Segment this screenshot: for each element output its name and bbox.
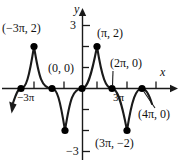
y-axis: [79, 8, 86, 160]
point-label-min: (3π, −2): [95, 137, 134, 149]
point-dot: [93, 43, 100, 50]
leader-line-two-pi: [113, 71, 114, 86]
y-tick-label-3: 3: [70, 19, 76, 31]
point-label-two-pi: (2π, 0): [110, 57, 142, 69]
point-label-left-max: (−3π, 2): [2, 22, 41, 34]
point-label-origin: (0, 0): [48, 62, 74, 74]
point-label-four-pi: (4π, 0): [138, 108, 170, 120]
point-dot: [123, 127, 130, 134]
point-dot: [61, 127, 68, 134]
graph-figure: y x 3 −3 −3π 3π (−3π, 2) (0, 0) (π, 2) (…: [0, 0, 189, 166]
point-dot: [138, 85, 145, 92]
point-dot: [48, 85, 55, 92]
x-axis-label: x: [160, 66, 165, 78]
point-dot: [78, 85, 85, 92]
y-axis-label: y: [74, 3, 79, 15]
x-tick-label-neg3pi: −3π: [17, 92, 34, 103]
point-label-right-max: (π, 2): [97, 27, 123, 39]
y-tick-label-neg3: −3: [66, 145, 79, 157]
point-dot: [30, 43, 37, 50]
leader-line-four-pi: [144, 91, 156, 108]
x-tick-label-3pi: 3π: [113, 92, 124, 103]
